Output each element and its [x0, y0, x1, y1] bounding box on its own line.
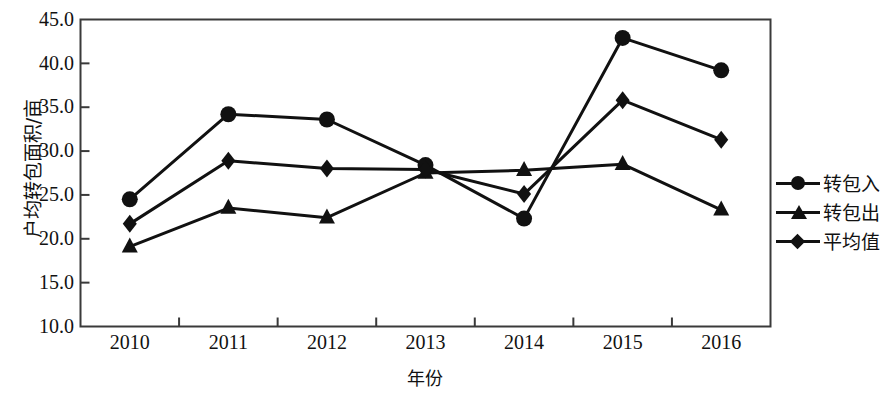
legend-label: 转包出	[820, 198, 880, 225]
x-tick-label: 2014	[479, 331, 569, 354]
x-tick-label: 2013	[381, 331, 471, 354]
x-tick-label: 2012	[282, 331, 372, 354]
x-tick-label: 2015	[578, 331, 668, 354]
x-tick-label: 2010	[85, 331, 175, 354]
x-tick-label: 2016	[676, 331, 766, 354]
line-chart: 户均转包面积/亩 45.0 40.0 35.0 30.0 25.0 20.0 1…	[0, 0, 895, 395]
chart-legend: 转包入 转包出 平均值	[776, 168, 895, 255]
data-series-layer	[122, 30, 729, 252]
legend-marker-triangle-icon	[776, 202, 820, 222]
series-1	[122, 30, 729, 227]
x-axis-title: 年份	[0, 364, 850, 390]
legend-item-pingjunzhi[interactable]: 平均值	[776, 226, 895, 255]
legend-marker-diamond-icon	[776, 231, 820, 251]
legend-label: 平均值	[820, 227, 880, 254]
legend-item-zhuanbaochu[interactable]: 转包出	[776, 197, 895, 226]
series-3	[123, 91, 728, 233]
legend-item-zhuanbaoru[interactable]: 转包入	[776, 168, 895, 197]
x-tick-label: 2011	[183, 331, 273, 354]
x-axis-ticks	[179, 318, 672, 327]
y-axis-ticks	[81, 63, 90, 282]
legend-marker-circle-icon	[776, 173, 820, 193]
legend-label: 转包入	[820, 169, 880, 196]
